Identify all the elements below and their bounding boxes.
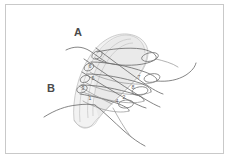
step-label-5: 5 — [92, 75, 95, 81]
step-label-8: 8 — [132, 84, 135, 90]
step-label-4: 4 — [116, 98, 119, 104]
thread-exit-right-upper — [156, 59, 178, 67]
figure-root: A B 6 5 3 1 7 8 2 4 — [0, 0, 231, 160]
region-label-b: B — [47, 82, 55, 94]
step-label-1: 1 — [89, 95, 92, 101]
thread-exit-bottom-tail — [95, 105, 145, 146]
step-label-7: 7 — [138, 74, 141, 80]
loop-marker-7 — [143, 72, 160, 83]
step-label-2: 2 — [123, 94, 126, 100]
step-label-6: 6 — [89, 63, 92, 69]
region-label-a: A — [74, 26, 82, 38]
suture-diagram-svg: A B 6 5 3 1 7 8 2 4 — [0, 0, 231, 160]
region-label-group: A B — [47, 26, 82, 94]
step-label-3: 3 — [82, 85, 85, 91]
